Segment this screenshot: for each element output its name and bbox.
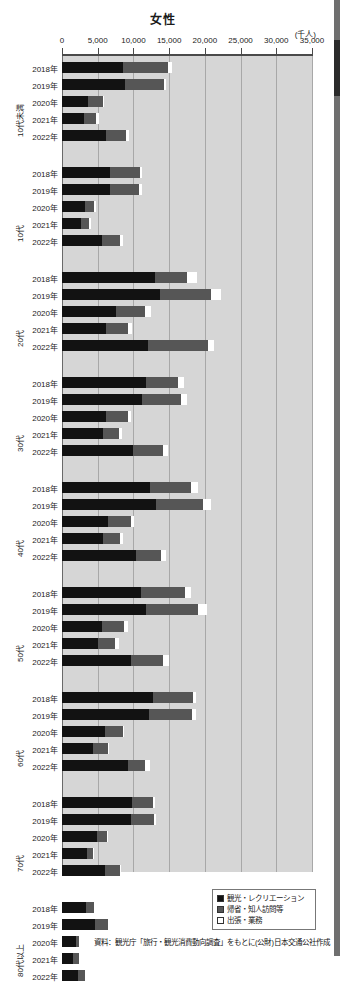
y-axis-group-label: 60代 [14, 750, 25, 767]
y-axis-year-label: 2020年 [18, 727, 58, 738]
y-axis-year-label: 2020年 [18, 202, 58, 213]
bar-segment-shuccho [192, 709, 196, 720]
bar-segment-kanko [62, 272, 155, 283]
bar-segment-shuccho [145, 760, 150, 771]
chart-legend: 観光・レクリエーション帰省・知人訪問等出張・業務 [212, 889, 316, 930]
bar-segment-shuccho [198, 604, 207, 615]
bar-segment-kisei [108, 516, 131, 527]
bar-segment-kisei [128, 760, 144, 771]
bar-segment-kisei [102, 621, 124, 632]
bar-segment-kisei [86, 902, 95, 913]
y-axis-group-label: 50代 [14, 645, 25, 662]
gridline [276, 56, 277, 872]
bar-segment-shuccho [93, 848, 94, 859]
gridline [133, 56, 134, 872]
bar-segment-kisei [149, 709, 192, 720]
bar-segment-kanko [62, 130, 106, 141]
legend-item: 出張・業務 [217, 915, 311, 926]
y-axis-year-label: 2019年 [18, 815, 58, 826]
x-axis-tick [133, 48, 134, 56]
bar-segment-kisei [93, 743, 107, 754]
bar-segment-shuccho [123, 726, 124, 737]
bar-segment-kisei [73, 953, 79, 964]
bar-segment-shuccho [131, 516, 135, 527]
bar-segment-kanko [62, 394, 142, 405]
bar-segment-shuccho [164, 79, 166, 90]
bar-segment-shuccho [120, 235, 123, 246]
bar-segment-shuccho [120, 533, 124, 544]
bar-segment-kanko [62, 96, 88, 107]
y-axis-year-label: 2020年 [18, 412, 58, 423]
bar-segment-kisei [146, 377, 178, 388]
bar-segment-kisei [150, 482, 191, 493]
y-axis-year-label: 2018年 [18, 273, 58, 284]
bar-segment-kanko [62, 499, 156, 510]
bar-segment-shuccho [153, 797, 154, 808]
y-axis-year-label: 2020年 [18, 622, 58, 633]
bar-segment-shuccho [163, 445, 168, 456]
bar-segment-kanko [62, 377, 146, 388]
bar-segment-shuccho [139, 184, 142, 195]
legend-item: 帰省・知人訪問等 [217, 904, 311, 915]
bar-segment-kisei [116, 306, 145, 317]
bar-segment-kisei [106, 323, 128, 334]
bar-segment-shuccho [193, 692, 197, 703]
bar-segment-kisei [131, 814, 154, 825]
bar-segment-kisei [105, 726, 123, 737]
bar-segment-kanko [62, 848, 87, 859]
bar-segment-kanko [62, 814, 131, 825]
y-axis-year-label: 2019年 [18, 605, 58, 616]
y-axis-group-label: 30代 [14, 435, 25, 452]
bar-segment-kanko [62, 516, 108, 527]
bar-segment-kanko [62, 411, 106, 422]
x-axis-tick-label: 35,000 [300, 36, 324, 45]
legend-label: 帰省・知人訪問等 [227, 904, 283, 915]
y-axis-year-label: 2019年 [18, 920, 58, 931]
bar-segment-kisei [160, 289, 211, 300]
gridline [205, 56, 206, 872]
bar-segment-kisei [146, 604, 197, 615]
bar-segment-kisei [105, 865, 120, 876]
bar-segment-kanko [62, 218, 81, 229]
bar-segment-kanko [62, 587, 141, 598]
bar-segment-kisei [103, 428, 119, 439]
bar-segment-kisei [125, 79, 164, 90]
bar-segment-shuccho [103, 96, 104, 107]
bar-segment-shuccho [126, 130, 130, 141]
source-note: 資料：観光庁「旅行・観光消費動向調査」をもとに(公財)日本交通公社作成 [0, 936, 330, 947]
bar-segment-kisei [98, 638, 114, 649]
bar-segment-kanko [62, 235, 102, 246]
bar-segment-kanko [62, 902, 86, 913]
scrollbar-thumb[interactable] [334, 40, 340, 96]
bar-segment-shuccho [115, 638, 119, 649]
bar-segment-shuccho [119, 428, 122, 439]
bar-segment-kanko [62, 306, 116, 317]
bar-segment-kisei [141, 587, 185, 598]
bar-segment-kisei [102, 235, 120, 246]
bar-segment-kisei [123, 62, 168, 73]
bar-segment-kanko [62, 953, 73, 964]
bar-segment-shuccho [140, 167, 142, 178]
bar-segment-kanko [62, 709, 149, 720]
bar-segment-kanko [62, 184, 110, 195]
bar-segment-shuccho [211, 289, 221, 300]
bar-segment-kanko [62, 604, 146, 615]
bar-segment-kisei [88, 96, 103, 107]
y-axis-year-label: 2018年 [18, 378, 58, 389]
bar-segment-kanko [62, 533, 103, 544]
bar-segment-shuccho [181, 394, 187, 405]
y-axis-year-label: 2019年 [18, 80, 58, 91]
bar-segment-kisei [106, 411, 127, 422]
window-edge-strip [334, 0, 340, 956]
x-axis-tick [276, 48, 277, 56]
x-axis-tick [98, 48, 99, 56]
bar-segment-kanko [62, 831, 97, 842]
gridline [312, 56, 313, 872]
bar-segment-shuccho [94, 201, 95, 212]
y-axis-group-label: 10代未満 [14, 104, 25, 137]
y-axis-year-label: 2018年 [18, 588, 58, 599]
bar-segment-shuccho [108, 743, 109, 754]
bar-segment-shuccho [96, 113, 99, 124]
y-axis-year-label: 2020年 [18, 307, 58, 318]
bar-segment-shuccho [168, 62, 172, 73]
